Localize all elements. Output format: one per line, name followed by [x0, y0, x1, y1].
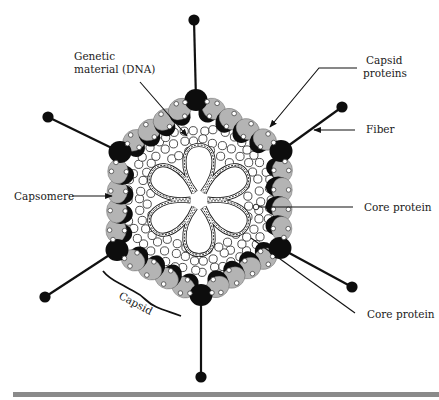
core-protein: [255, 158, 263, 166]
fiber-top: [194, 20, 196, 100]
capsomere-connector: [145, 273, 150, 278]
capsomere-connector: [266, 132, 271, 137]
penton-bottom: [190, 284, 213, 306]
core-protein: [199, 135, 207, 143]
core-protein: [236, 152, 244, 160]
core-protein: [138, 216, 146, 224]
capsomere-connector: [108, 208, 113, 213]
capsomere-connector: [144, 122, 149, 127]
core-protein: [139, 176, 147, 184]
fiber-knob-top: [188, 14, 199, 25]
core-protein: [201, 127, 209, 135]
label-capsid-proteins-2: proteins: [363, 67, 407, 79]
label-genetic-material-1: Genetic: [74, 50, 115, 62]
core-protein: [199, 257, 207, 265]
capsomere-connector: [207, 114, 212, 119]
core-protein: [244, 192, 252, 200]
capsomere-connector: [174, 101, 179, 106]
capsomere-connector: [272, 168, 277, 173]
core-protein: [161, 145, 169, 153]
core-protein: [209, 126, 217, 134]
capsomere-connector: [167, 124, 172, 129]
core-protein: [245, 159, 253, 167]
capsomere-connector: [250, 271, 255, 276]
core-protein: [175, 152, 183, 160]
capsomere-connector: [266, 262, 271, 267]
core-protein: [173, 240, 181, 248]
capsomere-connector: [215, 101, 220, 106]
core-protein: [189, 127, 197, 135]
capsomere-connector: [211, 277, 216, 282]
core-protein-1-target: [253, 204, 259, 210]
core-protein: [211, 263, 219, 271]
capsomere-connector: [178, 291, 183, 296]
capsomere-connector: [128, 133, 133, 138]
capsomere-connector: [243, 258, 248, 263]
core-protein-2-leader: [251, 238, 355, 313]
core-protein: [190, 257, 198, 265]
core-protein: [135, 195, 143, 203]
capsomere-connector: [286, 207, 291, 212]
capsomere-connector: [137, 145, 142, 150]
capsomere-connector: [159, 112, 164, 117]
label-fiber: Fiber: [366, 123, 396, 135]
capsomere-connector: [122, 228, 127, 233]
core-protein: [172, 249, 180, 257]
capsomere-connector: [258, 249, 263, 254]
capsomere-connector: [185, 278, 190, 283]
capsomere-connector: [161, 282, 166, 287]
capsomere-connector: [152, 135, 157, 140]
core-protein: [256, 233, 264, 241]
capsomere-connector: [128, 264, 133, 269]
core-protein: [243, 146, 251, 154]
capsomere-connector: [123, 189, 128, 194]
core-protein: [216, 152, 224, 160]
capsomere-connector: [107, 228, 112, 233]
fiber-lower-right: [280, 248, 352, 287]
capsomere-connector: [109, 169, 114, 174]
fiber-knob-upper-right: [336, 101, 347, 112]
capsomere-connector: [182, 114, 187, 119]
core-protein: [136, 206, 144, 214]
core-protein: [250, 225, 258, 233]
capsomere-connector: [135, 251, 140, 256]
label-genetic-material-2: material (DNA): [74, 63, 155, 75]
capsomere-connector: [232, 111, 237, 116]
capsomere-connector: [224, 124, 229, 129]
core-protein: [243, 233, 251, 241]
label-capsid-proteins-1: Capsid: [366, 54, 403, 66]
adenovirus-diagram: Genetic material (DNA) Capsid proteins F…: [0, 0, 439, 400]
capsomere-connector: [219, 290, 224, 295]
fiber-upper-left: [48, 117, 120, 152]
capsomere-connector: [168, 269, 173, 274]
capsomere-connector: [258, 145, 263, 150]
capsomere-connector: [109, 189, 114, 194]
capsomere-connector: [227, 268, 232, 273]
capsomere-connector: [286, 188, 291, 193]
core-protein: [255, 215, 263, 223]
core-protein: [181, 252, 189, 260]
capsomere-connector: [123, 209, 128, 214]
fiber-knob-upper-left: [42, 111, 53, 122]
capsomere-connector: [271, 226, 276, 231]
label-core-protein-1: Core protein: [364, 201, 432, 213]
capsomere-connector: [271, 187, 276, 192]
capsomere-connector: [286, 168, 291, 173]
capsomere-connector: [286, 226, 291, 231]
core-protein: [180, 127, 188, 135]
core-protein: [160, 247, 168, 255]
penton-top: [185, 89, 208, 111]
core-protein: [254, 175, 262, 183]
fiber-knob-lower-right: [346, 281, 357, 292]
core-protein: [215, 243, 223, 251]
capsomere-connector: [249, 121, 254, 126]
capsomere-connector: [234, 281, 239, 286]
fiber-knob-bottom: [195, 371, 206, 382]
core-protein: [192, 266, 200, 274]
core-protein: [238, 240, 246, 248]
core-protein: [223, 238, 231, 246]
capsomere-connector: [241, 134, 246, 139]
fiber-knob-lower-left: [39, 291, 50, 302]
core-protein: [209, 255, 217, 263]
core-protein: [152, 152, 160, 160]
